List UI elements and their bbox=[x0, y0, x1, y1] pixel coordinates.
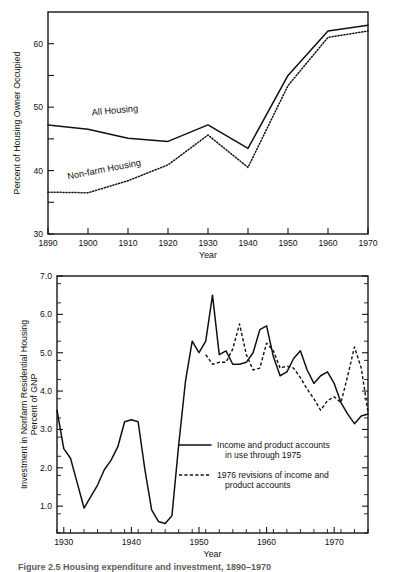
legend-label-1: 1976 revisions of income and bbox=[217, 470, 329, 480]
x-tick-label: 1970 bbox=[358, 238, 377, 248]
x-tick-label: 1910 bbox=[118, 238, 137, 248]
series-label-0: All Housing bbox=[91, 103, 138, 117]
y-tick-label: 4.0 bbox=[40, 386, 52, 396]
figure-svg: 189019001910192019301940195019601970Year… bbox=[0, 0, 393, 572]
x-tick-label: 1950 bbox=[278, 238, 297, 248]
y-tick-label: 1.0 bbox=[40, 501, 52, 511]
x-tick-label: 1960 bbox=[257, 537, 276, 547]
chart-residential-investment: 19301940195019601970Year1.02.03.04.05.06… bbox=[19, 271, 368, 559]
y-tick-label: 60 bbox=[33, 39, 43, 49]
y-tick-label: 3.0 bbox=[40, 424, 52, 434]
x-tick-label: 1940 bbox=[122, 537, 141, 547]
figure-container: 189019001910192019301940195019601970Year… bbox=[0, 0, 393, 572]
x-axis-title: Year bbox=[199, 250, 217, 260]
y-axis-title: Investment in Nonfarm Residential Housin… bbox=[19, 320, 29, 489]
x-tick-label: 1900 bbox=[78, 238, 97, 248]
y-tick-label: 6.0 bbox=[40, 309, 52, 319]
y-tick-label: 5.0 bbox=[40, 348, 52, 358]
y-tick-label: 50 bbox=[33, 102, 43, 112]
series-line-0 bbox=[57, 295, 368, 523]
y-tick-label: 7.0 bbox=[40, 271, 52, 281]
x-tick-label: 1920 bbox=[158, 238, 177, 248]
legend-label-1-b: product accounts bbox=[225, 480, 290, 490]
y-tick-label: 2.0 bbox=[40, 463, 52, 473]
x-tick-label: 1960 bbox=[318, 238, 337, 248]
y-axis-title-2: Percent of GNP bbox=[29, 374, 39, 436]
figure-caption: Figure 2.5 Housing expenditure and inves… bbox=[18, 562, 271, 572]
x-tick-label: 1890 bbox=[38, 238, 57, 248]
chart-owner-occupancy: 189019001910192019301940195019601970Year… bbox=[12, 12, 378, 260]
plot-frame bbox=[48, 12, 368, 234]
x-tick-label: 1970 bbox=[325, 537, 344, 547]
x-tick-label: 1940 bbox=[238, 238, 257, 248]
plot-frame bbox=[57, 276, 368, 533]
legend-label-0: Income and product accounts bbox=[217, 440, 330, 450]
legend: Income and product accountsin use throug… bbox=[179, 440, 330, 490]
x-tick-label: 1950 bbox=[189, 537, 208, 547]
y-tick-label: 30 bbox=[33, 229, 43, 239]
x-tick-label: 1930 bbox=[54, 537, 73, 547]
series-label-1: Non-farm Housing bbox=[66, 157, 141, 181]
series-line-1 bbox=[206, 324, 368, 412]
y-tick-label: 40 bbox=[33, 166, 43, 176]
y-axis-title: Percent of Housing Owner Occupied bbox=[12, 52, 22, 195]
series-line-0 bbox=[48, 25, 368, 148]
legend-label-0-b: in use through 1975 bbox=[225, 450, 301, 460]
x-axis-title: Year bbox=[204, 549, 222, 559]
x-tick-label: 1930 bbox=[198, 238, 217, 248]
